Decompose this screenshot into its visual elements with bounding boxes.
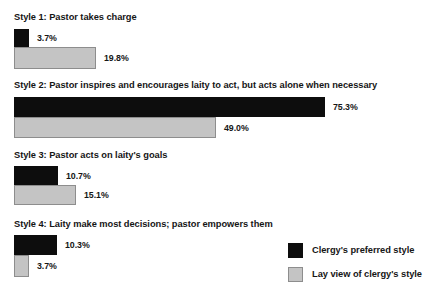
bar-4-lay [14, 255, 29, 277]
legend-label-1: Clergy's preferred style [312, 245, 414, 256]
bar-value-4-clergy: 10.3% [65, 240, 90, 250]
group-label-3: Style 3: Pastor acts on laity's goals [14, 150, 167, 161]
bar-1-lay [14, 47, 96, 69]
bar-2-lay [14, 117, 216, 138]
legend-swatch-clergy [288, 243, 303, 258]
bar-value-4-lay: 3.7% [37, 261, 57, 271]
bar-value-2-clergy: 75.3% [333, 102, 358, 112]
bar-3-lay [14, 185, 76, 205]
bar-4-clergy [14, 235, 57, 255]
group-label-4: Style 4: Laity make most decisions; past… [14, 219, 273, 230]
bar-2-clergy [14, 97, 325, 117]
bar-value-3-lay: 15.1% [84, 190, 109, 200]
group-label-1: Style 1: Pastor takes charge [14, 12, 137, 23]
bar-value-1-lay: 19.8% [104, 53, 129, 63]
bar-3-clergy [14, 166, 58, 185]
bar-value-1-clergy: 3.7% [37, 33, 57, 43]
bar-1-clergy [14, 29, 29, 47]
group-label-2: Style 2: Pastor inspires and encourages … [14, 80, 377, 91]
legend-swatch-lay [288, 267, 303, 282]
bar-value-3-clergy: 10.7% [66, 171, 91, 181]
legend-label-2: Lay view of clergy's style [312, 269, 422, 280]
bar-value-2-lay: 49.0% [224, 123, 249, 133]
